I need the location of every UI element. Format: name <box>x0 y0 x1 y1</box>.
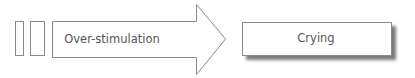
arrow-label: Over-stimulation <box>64 32 160 46</box>
bar-2 <box>31 22 45 56</box>
box-label: Crying <box>297 31 334 45</box>
bar-1 <box>16 22 24 56</box>
